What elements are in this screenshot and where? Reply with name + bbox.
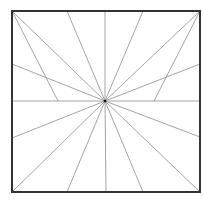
radial-line-diagram [0,0,203,203]
ray-line [12,101,105,138]
ray-line [105,11,200,101]
ray-line [67,101,105,192]
ray-line [12,101,105,192]
ray-line [105,64,200,101]
ray-line [12,64,105,101]
corner-segment [12,11,58,101]
ray-line [105,101,200,137]
corner-segments [12,11,200,101]
ray-line [105,101,106,192]
ray-line [12,11,105,101]
center-point [104,100,107,103]
ray-line [67,11,105,101]
ray-line [105,101,143,192]
corner-segment [154,11,200,101]
ray-line [105,101,200,192]
ray-line [105,11,143,101]
